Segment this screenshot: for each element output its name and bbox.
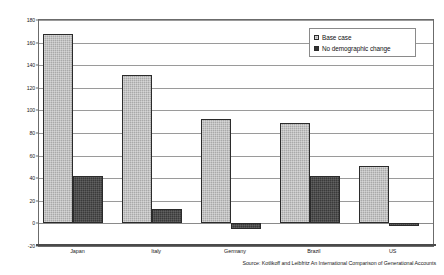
- x-axis-label-japan: Japan: [70, 248, 84, 254]
- x-axis-label-brazil: Brazil: [307, 248, 320, 254]
- bar-us-no-demographic-change: [389, 223, 419, 225]
- bar-group-germany: [197, 20, 276, 246]
- x-axis-label-us: US: [389, 248, 396, 254]
- x-axis-label-germany: Germany: [224, 248, 246, 254]
- bar-group-italy: [118, 20, 197, 246]
- bar-brazil-base-case: [280, 123, 310, 224]
- bar-group-japan: [39, 20, 118, 246]
- bar-japan-base-case: [43, 34, 73, 224]
- legend-item-base-case: Base case: [314, 32, 415, 43]
- x-axis-label-italy: Italy: [151, 248, 161, 254]
- chart-legend: Base case No demographic change: [309, 28, 416, 57]
- bar-italy-base-case: [122, 75, 152, 223]
- bar-germany-base-case: [201, 119, 231, 223]
- legend-label-no-demographic-change: No demographic change: [322, 45, 391, 52]
- bar-brazil-no-demographic-change: [310, 176, 340, 223]
- bar-japan-no-demographic-change: [73, 176, 103, 223]
- source-note: Source: Kotlikoff and Leibfritz An Inter…: [242, 260, 436, 266]
- bar-italy-no-demographic-change: [152, 209, 182, 224]
- bar-us-base-case: [359, 166, 389, 224]
- legend-swatch-no-demographic-change-icon: [314, 46, 319, 51]
- bar-germany-no-demographic-change: [231, 223, 261, 229]
- legend-item-no-demographic-change: No demographic change: [314, 43, 415, 54]
- legend-label-base-case: Base case: [322, 34, 351, 41]
- x-axis-line: [36, 244, 436, 246]
- generational-accounts-bar-chart: -20020406080100120140160180 JapanItalyGe…: [0, 0, 444, 275]
- legend-swatch-base-case-icon: [314, 35, 319, 40]
